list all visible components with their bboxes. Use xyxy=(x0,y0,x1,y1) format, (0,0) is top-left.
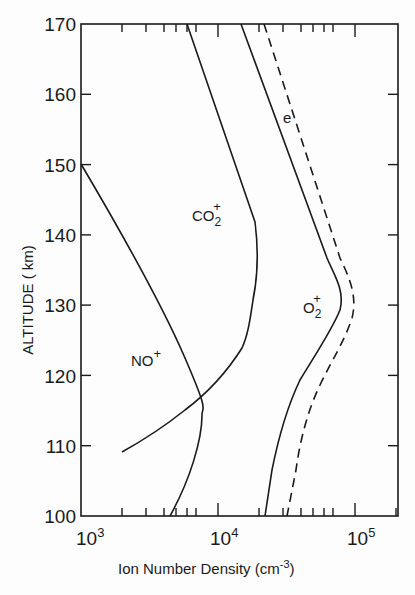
plot-frame xyxy=(81,24,398,516)
label-e: e xyxy=(283,109,291,126)
y-axis-title: ALTITUDE ( km) xyxy=(19,245,36,355)
chart-figure: 100 110 120 130 140 150 160 170 103 104 … xyxy=(0,0,415,595)
label-no-plus: NO+ xyxy=(131,346,161,369)
y-tick-120: 120 xyxy=(44,366,76,387)
y-tick-100: 100 xyxy=(44,506,76,527)
x-tick-1e4: 104 xyxy=(210,525,238,549)
y-tick-150: 150 xyxy=(44,155,76,176)
y-tick-130: 130 xyxy=(44,295,76,316)
label-co2-plus: CO2+ xyxy=(192,199,222,229)
y-tick-110: 110 xyxy=(46,436,76,457)
label-o2-plus: O2+ xyxy=(303,291,322,321)
x-ticks xyxy=(122,24,396,516)
series-no-plus xyxy=(81,164,203,516)
x-tick-labels: 103 104 105 xyxy=(76,525,375,549)
y-tick-140: 140 xyxy=(44,225,76,246)
y-ticks xyxy=(81,94,398,445)
x-tick-1e5: 105 xyxy=(347,525,375,549)
series-co2-plus xyxy=(122,24,257,452)
x-tick-1e3: 103 xyxy=(76,525,104,549)
series-o2-plus xyxy=(241,24,341,516)
series-labels: e CO2+ O2+ NO+ xyxy=(131,109,322,369)
y-tick-170: 170 xyxy=(44,14,76,35)
y-tick-160: 160 xyxy=(44,84,76,105)
y-tick-labels: 100 110 120 130 140 150 160 170 xyxy=(44,14,76,527)
x-axis-title: Ion Number Density (cm-3) xyxy=(118,558,295,577)
